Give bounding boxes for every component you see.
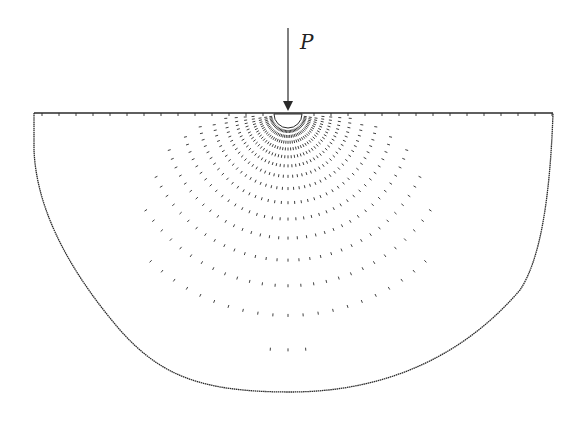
diagram-canvas: P bbox=[0, 0, 577, 421]
stress-trajectory-arrows bbox=[42, 113, 552, 351]
load-label-p: P bbox=[300, 30, 313, 54]
load-arrow-icon bbox=[283, 101, 293, 111]
contact-cavity bbox=[274, 114, 302, 128]
stress-diagram bbox=[0, 0, 577, 421]
stress-bulb-boundary bbox=[34, 113, 553, 392]
